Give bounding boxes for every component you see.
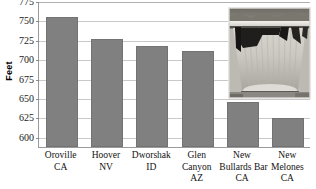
bar: [136, 46, 168, 147]
dam-photograph: [229, 8, 310, 98]
x-axis-category-label: NewBullards BarCA: [219, 150, 264, 185]
x-axis-label-line: Bullards Bar: [219, 162, 264, 174]
y-axis-tick-label: 675: [19, 75, 34, 85]
x-axis-label-line: New: [219, 150, 264, 162]
x-axis-category-label: NewMelonesCA: [265, 150, 310, 185]
y-axis-tick-labels: 775750725700675650625600: [0, 0, 36, 150]
x-axis-label-line: CA: [219, 173, 264, 185]
x-axis-label-line: Hoover: [83, 150, 128, 162]
x-axis-category-label: OrovilleCA: [38, 150, 83, 173]
x-axis-label-line: New: [265, 150, 310, 162]
y-axis-tick-label: 650: [19, 94, 34, 104]
bar: [91, 39, 123, 147]
x-axis-category-label: HooverNV: [83, 150, 128, 173]
x-axis-category-labels: OrovilleCAHooverNVDworshakIDGlenCanyonAZ…: [38, 150, 310, 189]
x-axis-label-line: Glen: [174, 150, 219, 162]
x-axis-label-line: Oroville: [38, 150, 83, 162]
y-axis-tick-label: 750: [19, 16, 34, 26]
bar: [227, 102, 259, 147]
x-axis-label-line: CA: [265, 173, 310, 185]
x-axis-label-line: Canyon: [174, 162, 219, 174]
x-axis-label-line: Dworshak: [129, 150, 174, 162]
x-axis-label-line: Melones: [265, 162, 310, 174]
y-axis-tick-label: 725: [19, 36, 34, 46]
dam-photo-image: [229, 8, 310, 98]
bar-chart: Feet 775750725700675650625600 OrovilleCA…: [0, 0, 316, 189]
x-axis-label-line: AZ: [174, 173, 219, 185]
y-axis-tick-label: 775: [19, 0, 34, 7]
y-axis-tick-label: 700: [19, 55, 34, 65]
x-axis-label-line: NV: [83, 162, 128, 174]
x-axis-category-label: GlenCanyonAZ: [174, 150, 219, 185]
x-axis-label-line: CA: [38, 162, 83, 174]
bar: [272, 118, 304, 148]
x-axis-category-label: DworshakID: [129, 150, 174, 173]
x-axis-label-line: ID: [129, 162, 174, 174]
bar: [182, 51, 214, 147]
y-axis-tick-label: 625: [19, 113, 34, 123]
y-axis-tick-label: 600: [19, 133, 34, 143]
bar: [46, 17, 78, 147]
